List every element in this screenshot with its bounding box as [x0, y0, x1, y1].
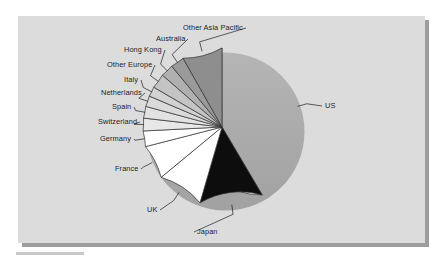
pie-label-other-asia-pacific: Other Asia Pacific — [183, 24, 243, 31]
pie-label-uk: UK — [147, 206, 157, 213]
leader-line-italy — [143, 88, 152, 92]
leader-line-netherlands — [139, 98, 148, 101]
leader-line-hong-kong — [161, 64, 168, 71]
pie-label-hong-kong: Hong Kong — [124, 46, 162, 53]
pie-chart — [0, 0, 440, 262]
leader-line-other-asia-pacific — [200, 42, 202, 51]
pie-label-australia: Australia — [156, 35, 185, 42]
pie-label-switzerland: Switzerland — [98, 118, 137, 125]
pie-label-germany: Germany — [100, 135, 131, 142]
leader-line-germany — [135, 139, 145, 140]
caption-rule — [16, 252, 84, 255]
leader-connector-france — [141, 167, 144, 169]
pie-label-japan: Japan — [197, 228, 218, 235]
leader-connector-uk — [160, 201, 174, 210]
leader-connector-italy — [141, 80, 143, 88]
leader-connector-spain — [134, 107, 136, 111]
pie-label-france: France — [115, 165, 138, 172]
leader-line-uk — [174, 192, 179, 200]
pie-label-us: US — [325, 102, 335, 109]
pie-label-netherlands: Netherlands — [101, 89, 142, 96]
leader-connector-us — [307, 104, 322, 106]
leader-connector-germany — [134, 139, 135, 140]
pie-label-italy: Italy — [124, 76, 138, 83]
leader-line-spain — [136, 111, 146, 113]
leader-line-other-europe — [150, 76, 158, 82]
pie-label-spain: Spain — [112, 103, 131, 110]
leader-line-france — [144, 163, 153, 167]
pie-label-other-europe: Other Europe — [107, 61, 152, 68]
leader-line-australia — [172, 55, 178, 63]
